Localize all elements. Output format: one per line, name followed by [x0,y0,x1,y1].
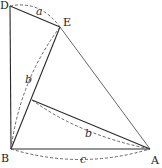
label-b-left: b [25,73,32,86]
label-D: D [0,0,9,12]
label-E: E [63,16,71,29]
label-b-inner: b [85,127,92,140]
segment-EB [11,27,60,149]
segment-DB [10,6,11,149]
label-c: c [80,153,86,166]
label-B: B [1,152,9,165]
geometry-diagram: D E B A a b b c [0,0,162,168]
label-a: a [36,5,43,18]
label-A: A [150,154,160,167]
segment-DE [10,6,60,27]
